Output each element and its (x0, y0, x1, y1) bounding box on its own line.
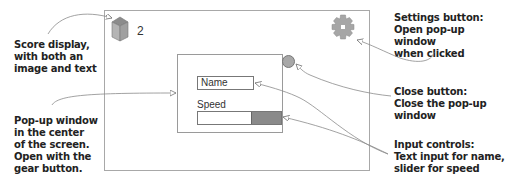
leader-score (48, 14, 112, 34)
leader-popup (52, 93, 176, 105)
leader-close (296, 64, 391, 96)
leader-slider (283, 117, 388, 154)
leader-name-input (255, 83, 388, 154)
leader-settings (357, 40, 434, 61)
leader-lines (0, 0, 505, 186)
